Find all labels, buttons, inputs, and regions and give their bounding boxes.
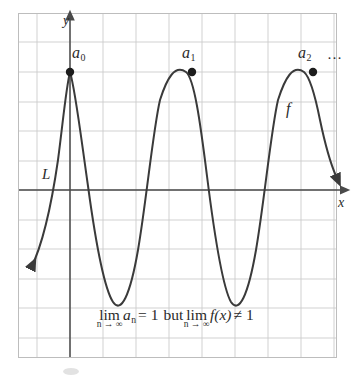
point-label-a2: a2 xyxy=(298,45,311,63)
function-curve-label: f xyxy=(286,101,290,117)
point-label-a2-base: a xyxy=(298,44,306,61)
limit-of-sequence-figure: y x L f a0 a1 a2 … lim n → ∞ an=1but lim… xyxy=(0,0,355,380)
point-label-a1-base: a xyxy=(182,44,190,61)
point-marker-a0 xyxy=(66,68,74,76)
caption-conjunction: but xyxy=(160,306,186,323)
point-marker-a1 xyxy=(188,68,196,76)
ellipsis-label: … xyxy=(327,47,343,62)
limit-operator-2-group: lim n → ∞ xyxy=(186,306,207,324)
limit-result-1: 1 xyxy=(149,306,161,323)
point-label-a2-index: 2 xyxy=(306,52,311,63)
point-label-a1-index: 1 xyxy=(190,52,195,63)
page-smudge-mark xyxy=(63,368,79,375)
sequence-term-base: a xyxy=(123,306,131,323)
limit-subscript-2: n → ∞ xyxy=(184,319,210,329)
point-label-a0: a0 xyxy=(72,45,85,63)
point-label-a0-index: 0 xyxy=(80,52,85,63)
y-axis-label: y xyxy=(63,14,69,28)
point-label-a0-base: a xyxy=(72,44,80,61)
function-expression: f(x) xyxy=(207,306,232,323)
point-label-a1: a1 xyxy=(182,45,195,63)
x-axis-label: x xyxy=(338,196,344,210)
equals-sign: = xyxy=(136,306,149,323)
limit-subscript-1: n → ∞ xyxy=(97,319,123,329)
point-marker-a2 xyxy=(309,68,317,76)
limit-value-label: L xyxy=(42,167,50,182)
limit-result-2: 1 xyxy=(244,306,256,323)
limit-operator-1-group: lim n → ∞ xyxy=(99,306,120,324)
limit-caption: lim n → ∞ an=1but lim n → ∞ f(x)≠1 xyxy=(0,306,355,325)
not-equals-sign: ≠ xyxy=(231,306,244,323)
